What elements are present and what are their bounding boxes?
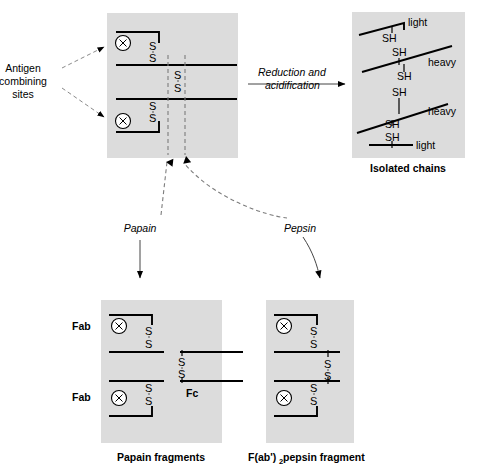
disulfide-s-upper-2: S [149, 52, 156, 64]
intact-antibody-panel: S S S S S S [107, 13, 238, 158]
antigen-site-leaders [62, 47, 104, 117]
pepsin-caption-tail: pepsin fragment [283, 451, 365, 463]
heavy-chain-2-label: heavy [428, 105, 457, 117]
fab-lower-label: Fab [72, 391, 91, 403]
reduction-label-line1: Reduction and [258, 66, 327, 78]
papain-label: Papain [124, 222, 157, 234]
pepsin-caption-main: F(ab') [248, 451, 276, 463]
pepsin-s-lower-2: S [310, 395, 317, 407]
papain-fragments-panel: S S Fab S S Fab S S [72, 300, 243, 443]
fab2-antigen-site [112, 391, 127, 406]
fab2-s-2: S [145, 395, 152, 407]
heavy-chain-1-label: heavy [428, 56, 457, 68]
isolated-chains-background [352, 12, 465, 158]
light-chain-1-label: light [408, 16, 427, 28]
pepsin-s-upper-1: S [310, 325, 317, 337]
antigen-site-lower [116, 114, 131, 129]
fab1-s-2: S [145, 338, 152, 350]
pepsin-fragment-panel: S S S S S S [266, 300, 354, 443]
thiol-4: SH [392, 86, 407, 98]
light-chain-2-label: light [416, 139, 435, 151]
thiol-2: SH [392, 46, 407, 58]
thiol-1: SH [382, 32, 397, 44]
pepsin-s-lower-1: S [310, 382, 317, 394]
fab1-antigen-site [112, 319, 127, 334]
reduction-label-line2: acidification [265, 79, 320, 91]
fc-s-1: S [178, 356, 185, 368]
antigen-sites-label-line1: Antigen [5, 62, 41, 74]
diagram-svg: S S S S S S [0, 0, 486, 474]
antigen-site-upper [116, 36, 131, 51]
disulfide-s-lower-1: S [149, 100, 156, 112]
fc-label: Fc [186, 387, 198, 399]
disulfide-s-lower-2: S [149, 112, 156, 124]
papain-fragments-caption: Papain fragments [117, 451, 205, 463]
pepsin-s-upper-2: S [310, 338, 317, 350]
antigen-sites-label-line2: combining [0, 75, 47, 87]
fab-upper-label: Fab [72, 320, 91, 332]
pepsin-s-hinge-1: S [324, 358, 331, 370]
intact-antibody-background [107, 13, 238, 158]
pepsin-label: Pepsin [284, 222, 316, 234]
isolated-chains-panel: light SH SH SH heavy SH SH heavy SH ligh… [352, 12, 465, 158]
fab2-s-1: S [145, 382, 152, 394]
figure-canvas: S S S S S S [0, 0, 486, 474]
isolated-chains-caption: Isolated chains [370, 162, 446, 174]
fab1-s-1: S [145, 325, 152, 337]
pepsin-antigen-site-upper [277, 319, 292, 334]
disulfide-s-upper-1: S [149, 40, 156, 52]
papain-branch-leader [140, 162, 167, 278]
pepsin-antigen-site-lower [277, 391, 292, 406]
pepsin-fragment-caption: F(ab') 2 pepsin fragment [248, 451, 365, 466]
pepsin-branch-leader [184, 163, 320, 278]
disulfide-s-hinge-2: S [174, 82, 181, 94]
antigen-sites-label-line3: sites [12, 88, 34, 100]
fc-s-2: S [178, 368, 185, 380]
disulfide-s-hinge-1: S [174, 69, 181, 81]
